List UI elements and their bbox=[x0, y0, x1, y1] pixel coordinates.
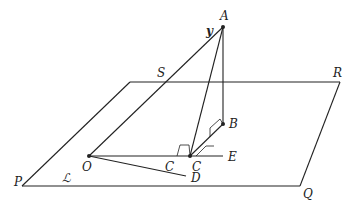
label-c1: C bbox=[165, 160, 174, 174]
line-ac bbox=[190, 27, 223, 156]
label-s: S bbox=[157, 66, 165, 80]
label-d: D bbox=[190, 171, 201, 185]
label-a: A bbox=[219, 9, 229, 23]
edge-ps bbox=[22, 82, 130, 186]
line-oa bbox=[89, 27, 223, 156]
label-o: O bbox=[82, 160, 92, 174]
label-e: E bbox=[227, 150, 237, 164]
label-q: Q bbox=[303, 187, 313, 200]
label-p: P bbox=[13, 175, 23, 189]
right-angle-mark-c bbox=[177, 145, 190, 156]
line-bc bbox=[190, 124, 223, 156]
geometry-diagram: A y S R B E O C C D P ℒ Q bbox=[0, 0, 359, 200]
point-o bbox=[87, 154, 91, 158]
label-b: B bbox=[228, 117, 238, 131]
point-c bbox=[188, 154, 192, 158]
point-b bbox=[221, 122, 225, 126]
label-r: R bbox=[332, 66, 342, 80]
edge-rq bbox=[300, 82, 340, 186]
label-y: y bbox=[205, 24, 214, 38]
point-a bbox=[221, 25, 225, 29]
label-plane-l: ℒ bbox=[62, 171, 71, 185]
